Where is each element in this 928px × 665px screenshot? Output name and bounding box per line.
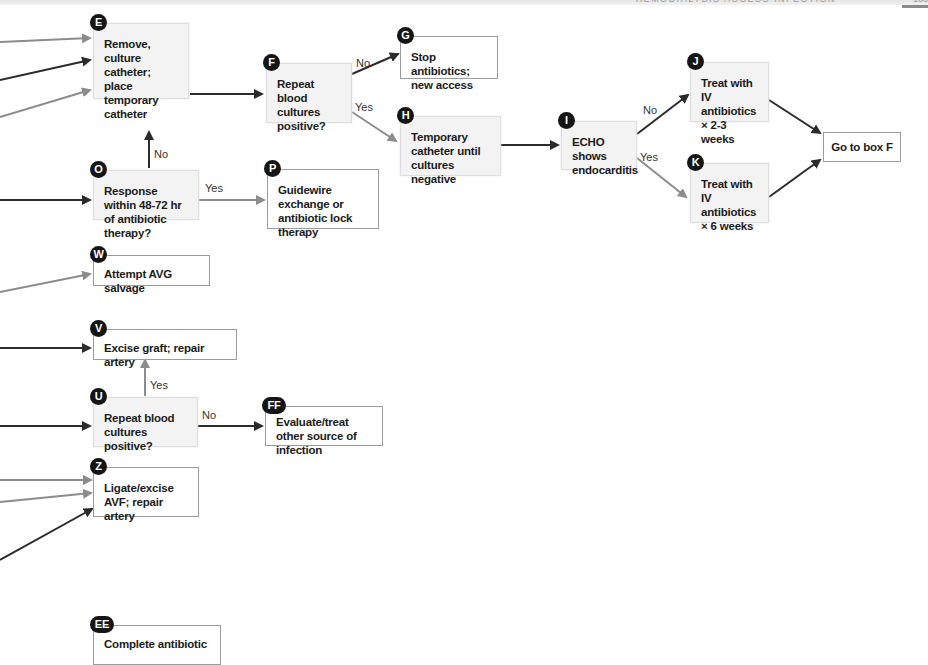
box-badge-H: H <box>397 107 414 124</box>
box-text-V: Excise graft; repair artery <box>104 341 228 369</box>
box-badge-F: F <box>263 54 280 71</box>
flow-box-K: K Treat with IV antibiotics × 6 weeks <box>690 163 769 223</box>
edge-label-O-P: Yes <box>205 182 223 194</box>
box-badge-K: K <box>687 154 704 171</box>
edge-in-Z-2 <box>0 493 91 502</box>
flow-box-FF: FF Evaluate/treat other source of infect… <box>265 406 383 446</box>
flow-box-goto-F: Go to box F <box>823 132 901 162</box>
edge-in-E-2 <box>0 60 90 80</box>
box-text-F: Repeat blood cultures positive? <box>277 77 343 133</box>
flow-box-U: U Repeat blood cultures positive? <box>93 397 198 447</box>
edge-F-H <box>352 112 396 141</box>
box-text-EE: Complete antibiotic <box>104 637 212 651</box>
box-badge-Z: Z <box>90 458 107 475</box>
box-badge-EE: EE <box>90 616 114 633</box>
flow-box-F: F Repeat blood cultures positive? <box>266 63 352 123</box>
flow-box-W: W Attempt AVG salvage <box>93 255 210 286</box>
box-badge-O: O <box>90 161 107 178</box>
edge-label-U-V: Yes <box>150 379 168 391</box>
flow-box-J: J Treat with IV antibiotics × 2-3 weeks <box>690 62 769 122</box>
edge-I-K <box>637 158 686 197</box>
edge-J-goto <box>769 100 820 133</box>
box-badge-FF: FF <box>262 397 286 414</box>
box-text-O: Response within 48-72 hr of antibiotic t… <box>104 184 190 240</box>
edge-label-F-G: No <box>356 57 370 69</box>
box-text-Z: Ligate/excise AVF; repair artery <box>104 481 190 523</box>
edge-label-O-E: No <box>154 148 168 160</box>
box-badge-G: G <box>397 27 414 44</box>
edge-in-E-1 <box>0 38 90 42</box>
flow-box-EE: EE Complete antibiotic <box>93 625 221 665</box>
flow-box-H: H Temporary catheter until cultures nega… <box>400 116 501 176</box>
flow-box-Z: Z Ligate/excise AVF; repair artery <box>93 467 199 517</box>
box-badge-P: P <box>264 160 281 177</box>
edge-in-W <box>0 274 90 292</box>
box-text-FF: Evaluate/treat other source of infection <box>276 415 374 457</box>
flow-box-I: I ECHO shows endocarditis <box>561 121 637 170</box>
box-badge-J: J <box>687 53 704 70</box>
edge-in-E-3 <box>0 90 90 117</box>
box-text-U: Repeat blood cultures positive? <box>104 411 189 453</box>
box-text-P: Guidewire exchange or antibiotic lock th… <box>278 183 370 239</box>
flow-box-V: V Excise graft; repair artery <box>93 329 237 360</box>
box-badge-V: V <box>90 320 107 337</box>
flow-box-O: O Response within 48-72 hr of antibiotic… <box>93 170 199 220</box>
box-text-E: Remove, culture catheter; place temporar… <box>104 37 180 121</box>
flow-box-P: P Guidewire exchange or antibiotic lock … <box>267 169 379 229</box>
box-badge-E: E <box>90 14 107 31</box>
edge-label-U-FF: No <box>202 409 216 421</box>
edge-in-Z-3 <box>0 509 92 560</box>
box-text-G: Stop antibiotics; new access <box>411 50 489 92</box>
box-badge-U: U <box>90 388 107 405</box>
edge-label-I-J: No <box>643 104 657 116</box>
box-text-J: Treat with IV antibiotics × 2-3 weeks <box>701 76 760 146</box>
edge-K-goto <box>769 160 820 197</box>
edge-label-F-H: Yes <box>355 101 373 113</box>
flow-box-G: G Stop antibiotics; new access <box>400 36 498 79</box>
box-badge-W: W <box>90 246 107 263</box>
box-text-goto-F: Go to box F <box>831 140 893 154</box>
box-text-W: Attempt AVG salvage <box>104 267 201 295</box>
box-text-I: ECHO shows endocarditis <box>572 135 628 177</box>
box-badge-I: I <box>558 112 575 129</box>
box-text-K: Treat with IV antibiotics × 6 weeks <box>701 177 760 233</box>
flow-box-E: E Remove, culture catheter; place tempor… <box>93 23 189 99</box>
edge-label-I-K: Yes <box>640 151 658 163</box>
box-text-H: Temporary catheter until cultures negati… <box>411 130 492 186</box>
